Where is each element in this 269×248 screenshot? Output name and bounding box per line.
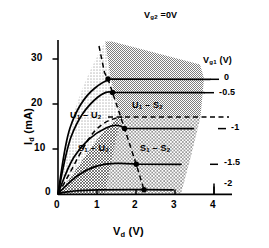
rl2-s2: 2 — [105, 146, 109, 153]
x-tick-label-1: 1 — [94, 199, 100, 210]
x-tick-label-0: 0 — [54, 199, 60, 210]
figure-root: Vg2 =0V — [0, 0, 269, 248]
y-axis-title-tail: (mA) — [22, 108, 34, 137]
knee-marker — [122, 126, 127, 131]
knee-marker — [105, 76, 110, 81]
legend-label-m0.5: -0.5 — [219, 87, 235, 97]
legend-label-m1.5: -1.5 — [224, 157, 240, 167]
rl1-d: – — [142, 100, 153, 110]
knee-marker — [141, 187, 146, 192]
rl1-s2: 2 — [159, 103, 163, 110]
x-tick-label-4: 4 — [210, 199, 216, 210]
region-label-u1-s2: U1 – S2 — [132, 100, 163, 110]
plot-canvas — [0, 0, 269, 248]
region-label-s1-s2: S1 – S2 — [140, 143, 170, 153]
rl0-m2: U — [91, 110, 98, 120]
legend-label-0: 0 — [224, 72, 229, 82]
x-tick-label-3: 3 — [171, 199, 177, 210]
legend-label-m2: -2 — [224, 178, 232, 188]
rl2-d: – — [88, 143, 99, 153]
knee-marker — [110, 90, 115, 95]
rl0-d: – — [80, 110, 91, 120]
legend-title: Vg1 (V) — [203, 55, 232, 65]
legend-title-sub: g1 — [209, 58, 217, 65]
x-axis-title-main: V — [113, 225, 121, 237]
region-label-s1-u2: S1 – U2 — [78, 143, 109, 153]
y-axis-title: Id (mA) — [22, 108, 36, 145]
y-tick-label-20: 20 — [31, 97, 43, 108]
x-axis-title: Vd (V) — [113, 225, 144, 239]
y-tick-label-0: 0 — [45, 186, 51, 197]
rl3-s2: 2 — [167, 146, 171, 153]
region-label-u1-u2: U1 – U2 — [70, 110, 101, 120]
rl0-s2: 2 — [98, 113, 102, 120]
rl3-d: – — [150, 143, 161, 153]
x-tick-label-2: 2 — [132, 199, 138, 210]
knee-marker — [134, 162, 139, 167]
legend-title-tail: (V) — [217, 55, 232, 65]
x-axis-title-tail: (V) — [125, 225, 144, 237]
y-tick-label-10: 10 — [34, 142, 46, 153]
y-axis-title-sub: d — [27, 137, 36, 142]
y-axis-title-main: I — [22, 142, 34, 145]
rl1-m1: U — [132, 100, 139, 110]
y-tick-label-30: 30 — [31, 52, 43, 63]
rl0-m1: U — [70, 110, 77, 120]
legend-label-m1: -1 — [231, 122, 239, 132]
